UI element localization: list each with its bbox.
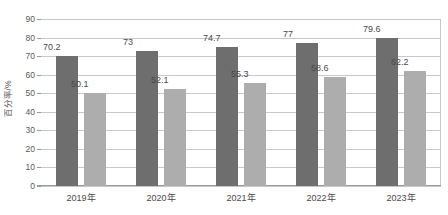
bar-value-label: 77 xyxy=(283,30,293,39)
x-axis-tick-label: 2021年 xyxy=(226,191,255,204)
y-axis-tick xyxy=(37,112,41,113)
y-axis-tick-label: 80 xyxy=(26,33,35,42)
y-axis-tick-label: 0 xyxy=(30,182,35,191)
y-axis-tick-label: 60 xyxy=(26,70,35,79)
y-axis-tick xyxy=(37,130,41,131)
bar xyxy=(56,56,78,186)
bar xyxy=(324,77,346,186)
x-axis-tick-label: 2019年 xyxy=(66,191,95,204)
bar xyxy=(216,47,238,186)
y-axis-title: 百分率/% xyxy=(0,0,14,215)
plot-right-border xyxy=(440,19,441,186)
gridline xyxy=(41,186,441,187)
y-axis-tick xyxy=(37,75,41,76)
bar xyxy=(164,89,186,186)
y-axis-tick-label: 20 xyxy=(26,145,35,154)
y-axis-tick-label: 40 xyxy=(26,108,35,117)
bar-value-label: 73 xyxy=(123,38,133,47)
bar-value-label: 52.1 xyxy=(151,76,169,85)
bar-value-label: 50.1 xyxy=(71,80,89,89)
y-axis-title-label: 百分率/% xyxy=(1,80,13,117)
y-axis-tick xyxy=(37,149,41,150)
bar xyxy=(404,71,426,186)
bar-chart: 百分率/% 010203040506070809070.250.17352.17… xyxy=(0,0,448,215)
bar-value-label: 79.6 xyxy=(363,25,381,34)
bar xyxy=(84,93,106,186)
bar-value-label: 70.2 xyxy=(43,43,61,52)
bar-value-label: 55.3 xyxy=(231,70,249,79)
y-axis-tick xyxy=(37,56,41,57)
y-axis-tick xyxy=(37,167,41,168)
y-axis-tick-label: 10 xyxy=(26,163,35,172)
y-axis-tick-label: 70 xyxy=(26,52,35,61)
y-axis-tick-label: 50 xyxy=(26,89,35,98)
y-axis-tick-label: 90 xyxy=(26,15,35,24)
gridline xyxy=(41,19,441,20)
y-axis-tick xyxy=(37,19,41,20)
y-axis-tick-label: 30 xyxy=(26,126,35,135)
y-axis-tick xyxy=(37,93,41,94)
bar-value-label: 58.6 xyxy=(311,64,329,73)
bar-value-label: 74.7 xyxy=(203,34,221,43)
bar-value-label: 62.2 xyxy=(391,58,409,67)
x-axis-tick-label: 2020年 xyxy=(146,191,175,204)
x-axis-tick-label: 2023年 xyxy=(386,191,415,204)
y-axis-tick xyxy=(37,186,41,187)
x-axis-tick-label: 2022年 xyxy=(306,191,335,204)
plot-area: 010203040506070809070.250.17352.174.755.… xyxy=(41,19,441,186)
y-axis-tick xyxy=(37,38,41,39)
bar xyxy=(136,51,158,186)
bar xyxy=(244,83,266,186)
